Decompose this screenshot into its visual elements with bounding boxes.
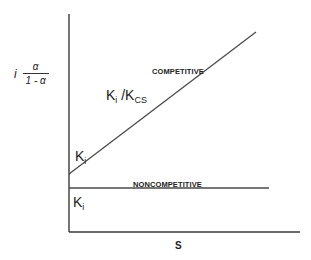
y-axis-label-prefix: i [14,68,17,80]
competitive-intercept-k: K [75,148,84,164]
competitive-intercept-sub: i [84,156,86,166]
competitive-label: COMPETITIVE [152,68,204,76]
noncompetitive-label: NONCOMPETITIVE [133,181,202,189]
slope-label-k: K [106,87,115,103]
y-axis-label-denominator: 1 - α [26,74,46,86]
y-axis-label-fraction: α 1 - α [23,62,49,86]
noncompetitive-intercept-label: Ki [73,195,84,212]
noncompetitive-intercept-k: K [73,194,82,210]
noncompetitive-intercept-sub: i [82,202,84,212]
competitive-slope-label: Ki /KCS [106,88,147,105]
y-axis-label-numerator: α [33,62,39,73]
competitive-intercept-label: Ki [75,149,86,166]
slope-label-cs-sub: CS [134,95,147,105]
x-axis-label: S [175,241,182,251]
slope-label-sep: /K [117,87,134,103]
y-axis-label: i α 1 - α [14,62,49,86]
diagram-canvas [0,0,311,260]
competitive-line [69,32,256,174]
